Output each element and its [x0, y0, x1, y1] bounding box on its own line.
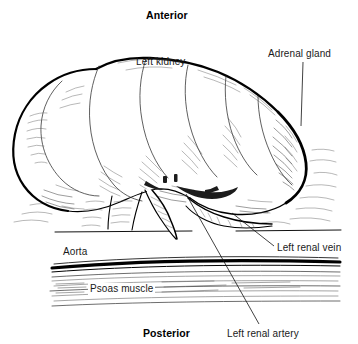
- label-adrenal-gland: Adrenal gland: [268, 48, 331, 60]
- label-psoas-muscle: Psoas muscle: [88, 283, 155, 295]
- label-aorta: Aorta: [63, 246, 87, 258]
- ground-baseline: [55, 230, 341, 232]
- adrenal-gland-leader: [301, 62, 303, 126]
- label-posterior: Posterior: [143, 327, 190, 339]
- label-left-kidney: Left kidney: [136, 56, 185, 68]
- left-renal-vein-leader: [232, 213, 274, 246]
- label-anterior: Anterior: [146, 9, 188, 21]
- label-left-renal-vein: Left renal vein: [277, 242, 341, 254]
- anatomical-figure: Anterior Left kidney Adrenal gland Aorta…: [0, 0, 358, 344]
- aorta: [52, 257, 340, 272]
- left-kidney: [13, 58, 306, 215]
- label-left-renal-artery: Left renal artery: [227, 328, 299, 340]
